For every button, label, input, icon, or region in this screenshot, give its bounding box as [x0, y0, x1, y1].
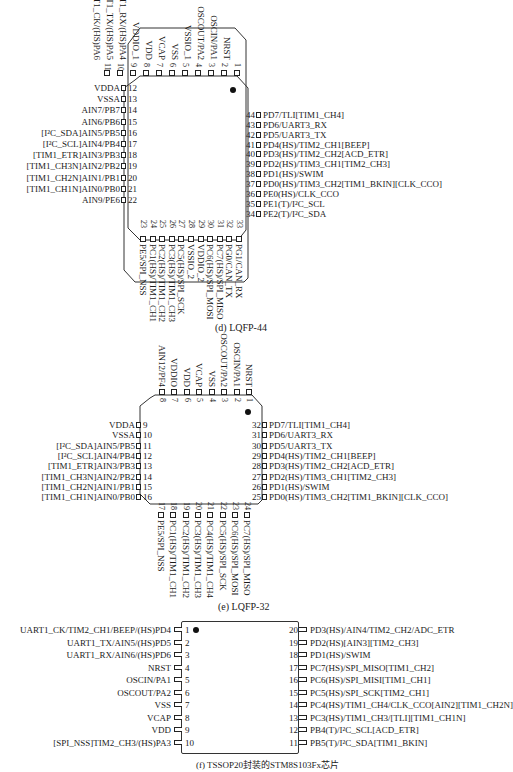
- pin-label: PE5/SPI_NSS: [156, 520, 166, 572]
- pin-pad: [262, 443, 267, 449]
- pin-number: 10: [143, 430, 152, 440]
- lqfp44-caption: (d) LQFP-44: [215, 322, 267, 333]
- pin-number: 42: [246, 130, 255, 140]
- pin-number: 16: [128, 128, 137, 138]
- pin-pad: [136, 484, 141, 490]
- pin-number: 3: [185, 650, 190, 660]
- pin-label: PC2(HS)/TIM1_CH2: [181, 520, 191, 598]
- pin-pad: [195, 70, 201, 76]
- pin-number: 31: [252, 430, 261, 440]
- pin-number: 2: [232, 398, 242, 402]
- pin-label: NRST: [148, 663, 171, 673]
- pin-label: PC1(HS)/TIM1_CH1: [168, 520, 178, 598]
- pin-number: 7: [154, 63, 164, 67]
- pin-label: PC4(HS)/TIM1_CH4/CLK_CCO[AIN2][TIM1_CH2N…: [310, 700, 513, 710]
- pin-label: VDD: [144, 41, 154, 61]
- pin-label: NRST: [222, 37, 232, 60]
- pin-pad: [174, 627, 182, 632]
- pin-pad: [159, 389, 165, 395]
- pin-label: [TIM1_ETR]AIN3/PB3: [48, 461, 135, 471]
- pin-pad: [221, 389, 227, 395]
- pin-pad: [121, 163, 126, 169]
- pin-number: 16: [289, 675, 298, 685]
- pin-number: 5: [194, 398, 204, 402]
- pin-number: 8: [141, 63, 151, 67]
- pin-label: AIN9/PE6: [82, 195, 120, 205]
- pin-number: 21: [128, 184, 137, 194]
- pin-number: 17: [128, 139, 137, 149]
- pin-label: PC7(HS)/SPI_MISO[TIM1_CH2]: [310, 663, 434, 673]
- pin-label: VSSIO_2: [186, 244, 196, 279]
- pin-number: 9: [143, 420, 148, 430]
- pin-label: PG1/CAN_RX: [234, 244, 244, 299]
- pin-label: PD7/TLI[TIM1_CH4]: [263, 110, 344, 120]
- pin-label: [TIM1_CH1N]AIN0/PB0: [42, 492, 136, 502]
- pin-pad: [262, 422, 267, 428]
- pin-number: 34: [246, 209, 255, 219]
- pin-number: 9: [128, 63, 138, 67]
- pin-pad: [256, 171, 261, 177]
- pin-number: 2: [219, 63, 229, 67]
- pin-number: 21: [205, 502, 215, 510]
- pin-pad: [299, 690, 307, 695]
- pin-pad: [262, 494, 267, 500]
- pin-number: 11: [143, 441, 152, 451]
- pin-pad: [121, 130, 126, 136]
- pin-label: PD6/UART3_RX: [263, 120, 327, 130]
- pin-label: PC5(HS)/SPI_SCK[TIM2_CH1]: [310, 688, 429, 698]
- pin-pad: [208, 70, 214, 76]
- pin-pad: [198, 236, 204, 242]
- pin-number: 1: [185, 625, 190, 635]
- pin-label: UART1_CK/(HS)PA6: [92, 0, 102, 60]
- pin-pad: [121, 175, 126, 181]
- pin-pad: [299, 727, 307, 732]
- pin-pad: [170, 512, 176, 518]
- pin-pad: [256, 112, 261, 118]
- pin-pad: [140, 236, 146, 242]
- pin-pad: [169, 70, 175, 76]
- pin-pad: [174, 690, 182, 695]
- pin-number: 28: [186, 220, 196, 228]
- pin-number: 5: [185, 675, 190, 685]
- pin-label: PD1(HS)/SWIM: [310, 650, 371, 660]
- pin-label: [I²C_SDA]AIN5/PB5: [41, 128, 120, 138]
- pin-label: NRST: [244, 364, 254, 387]
- pin-number: 14: [143, 472, 152, 482]
- pin-label: PG0/CAN_TX: [224, 244, 234, 298]
- pin-label: PC3(HS)/TIM1_CH3: [193, 520, 203, 598]
- tssop20-caption: (f) TSSOP20封装的STM8S103Fx芯片: [196, 758, 339, 771]
- pin-number: 14: [289, 700, 298, 710]
- pin-label: PD1(HS)/SWIM: [269, 482, 330, 492]
- pin-number: 11: [102, 63, 112, 71]
- pin-number: 30: [252, 441, 261, 451]
- pin-number: 17: [289, 663, 298, 673]
- pin-number: 4: [207, 398, 217, 402]
- pin-number: 17: [156, 502, 166, 510]
- pin-number: 14: [128, 105, 137, 115]
- pin-number: 43: [246, 120, 255, 130]
- pin-number: 9: [185, 725, 190, 735]
- pin-number: 6: [182, 398, 192, 402]
- pin-pad: [256, 201, 261, 207]
- pin-pad: [182, 70, 188, 76]
- pin-label: OSCIN/PA1: [126, 675, 171, 685]
- pin-number: 27: [176, 220, 186, 228]
- pin-pad: [209, 389, 215, 395]
- pin-label: [TIM1_CH3N]AIN2/PB2: [27, 161, 121, 171]
- pin-number: 7: [185, 700, 190, 710]
- pin-number: 25: [252, 492, 261, 502]
- pin-number: 18: [128, 150, 137, 160]
- pin-label: VSS: [170, 43, 180, 60]
- pin-label: VDDA: [109, 420, 135, 430]
- pin-pad: [121, 85, 126, 91]
- pin-number: 20: [193, 502, 203, 510]
- pin-pad: [207, 512, 213, 518]
- pin-label: VCAP: [194, 363, 204, 387]
- pin-label: PD1(HS)/SWIM: [263, 169, 324, 179]
- pin-number: 12: [143, 451, 152, 461]
- pin-label: PD3(HS)/TIM2_CH2[ACD_ETR]: [263, 149, 388, 159]
- pin-label: PB5(T)/I²C_SDA[TIM1_BKIN]: [310, 738, 427, 748]
- pin-pad: [136, 443, 141, 449]
- pin-pad: [121, 152, 126, 158]
- pin-number: 44: [246, 110, 255, 120]
